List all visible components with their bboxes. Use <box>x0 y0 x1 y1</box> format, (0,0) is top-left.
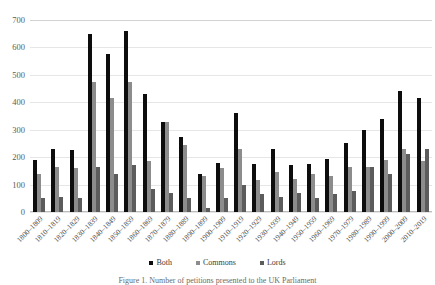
bar-group <box>103 20 121 212</box>
figure-caption: Figure 1. Number of petitions presented … <box>0 276 435 285</box>
bar-group <box>85 20 103 212</box>
bar-group <box>121 20 139 212</box>
bar-series-container <box>30 20 432 212</box>
bar-group <box>267 20 285 212</box>
bar-lords <box>41 198 45 212</box>
y-axis-tick-label: 0 <box>21 208 25 217</box>
bar-lords <box>206 208 210 212</box>
plot-area <box>30 20 432 212</box>
bar-lords <box>242 185 246 212</box>
bar-lords <box>187 198 191 212</box>
bar-group <box>158 20 176 212</box>
legend-item-both[interactable]: Both <box>149 258 172 267</box>
bar-lords <box>59 197 63 212</box>
bar-group <box>30 20 48 212</box>
bar-commons <box>202 176 206 212</box>
bar-lords <box>388 174 392 212</box>
bar-lords <box>297 193 301 212</box>
bar-group <box>322 20 340 212</box>
bar-group <box>176 20 194 212</box>
bar-lords <box>260 194 264 212</box>
y-axis-tick-label: 300 <box>12 125 25 134</box>
bar-group <box>213 20 231 212</box>
bar-lords <box>333 194 337 212</box>
legend-label: Commons <box>203 258 236 267</box>
bar-group <box>194 20 212 212</box>
legend-label: Both <box>156 258 172 267</box>
legend-item-commons[interactable]: Commons <box>196 258 236 267</box>
bar-lords <box>114 174 118 212</box>
legend-swatch-icon <box>260 261 264 265</box>
bar-group <box>414 20 432 212</box>
bar-lords <box>224 198 228 212</box>
y-axis-tick-label: 400 <box>12 98 25 107</box>
bar-group <box>395 20 413 212</box>
bar-group <box>140 20 158 212</box>
bar-group <box>359 20 377 212</box>
legend-swatch-icon <box>149 261 153 265</box>
bar-lords <box>151 189 155 212</box>
x-axis: 1800–18091810–18191820–18291830–18391840… <box>30 213 432 261</box>
x-axis-tick: 2010–2019 <box>414 213 432 261</box>
bar-lords <box>78 198 82 212</box>
bar-lords <box>279 197 283 212</box>
legend-label: Lords <box>267 258 286 267</box>
bar-group <box>231 20 249 212</box>
bar-group <box>377 20 395 212</box>
y-axis: 0100200300400500600700 <box>0 20 28 212</box>
y-axis-tick-label: 500 <box>12 71 25 80</box>
bar-group <box>48 20 66 212</box>
bar-lords <box>406 154 410 212</box>
bar-group <box>286 20 304 212</box>
bar-group <box>249 20 267 212</box>
bar-group <box>67 20 85 212</box>
bar-lords <box>96 167 100 212</box>
bar-lords <box>132 165 136 212</box>
bar-lords <box>315 198 319 212</box>
bar-group <box>341 20 359 212</box>
bar-lords <box>169 193 173 212</box>
y-axis-tick-label: 100 <box>12 180 25 189</box>
bar-lords <box>352 191 356 212</box>
chart-legend: BothCommonsLords <box>0 258 435 267</box>
legend-swatch-icon <box>196 261 200 265</box>
y-axis-tick-label: 200 <box>12 153 25 162</box>
bar-lords <box>425 149 429 212</box>
bar-lords <box>370 167 374 212</box>
legend-item-lords[interactable]: Lords <box>260 258 286 267</box>
y-axis-tick-label: 600 <box>12 43 25 52</box>
y-axis-tick-label: 700 <box>12 16 25 25</box>
bar-group <box>304 20 322 212</box>
